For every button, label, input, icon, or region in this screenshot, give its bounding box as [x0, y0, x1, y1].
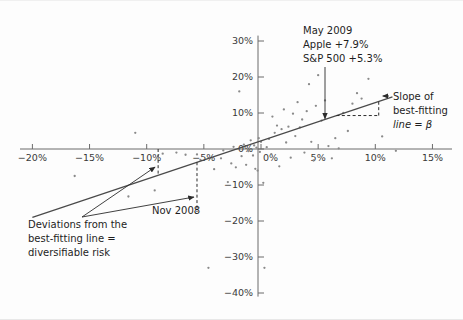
may-2009-line2: Apple +7.9%	[303, 39, 368, 50]
may-2009-line1: May 2009	[303, 25, 352, 36]
deviations-line3: diversifiable risk	[28, 247, 110, 258]
may-2009-line3: S&P 500 +5.3%	[303, 53, 382, 64]
slope-line2: best-fitting	[393, 105, 448, 116]
slope-line3: line = β	[393, 119, 433, 130]
slope-line1: Slope of	[393, 91, 434, 102]
chart-figure: −20%−15%−10%−5%0%5%10%15% 30%20%10%0%−10…	[0, 0, 463, 320]
chart-text-layer: May 2009 Apple +7.9% S&P 500 +5.3% Slope…	[0, 1, 463, 320]
deviations-line1: Deviations from the	[28, 219, 127, 230]
nov-2008-label: Nov 2008	[152, 205, 200, 216]
deviations-line2: best-fitting line =	[28, 233, 116, 244]
